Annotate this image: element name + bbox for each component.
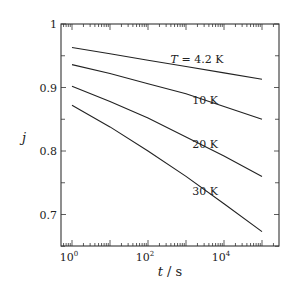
y-tick-label: 1 (50, 18, 57, 31)
curve-label: 30 K (192, 185, 218, 198)
data-curves (72, 48, 262, 232)
x-axis-ticks: 100102104 (60, 24, 274, 264)
chart: 100102104 10.90.80.7 T = 4.2 K10 K20 K30… (0, 0, 296, 295)
curve-1 (72, 65, 262, 120)
y-axis-label: j (19, 130, 26, 145)
y-tick-label: 0.9 (40, 82, 58, 95)
curve-2 (72, 86, 262, 176)
curve-label: 10 K (192, 94, 218, 107)
y-tick-label: 0.7 (40, 209, 58, 222)
curve-label: T = 4.2 K (171, 53, 225, 66)
y-axis-ticks: 10.90.80.7 (40, 18, 280, 246)
curve-label: 20 K (192, 138, 218, 151)
x-axis-unit: / s (163, 264, 182, 279)
x-axis-label: t / s (158, 264, 183, 279)
curve-3 (72, 105, 262, 231)
y-tick-label: 0.8 (40, 145, 58, 158)
x-tick-label: 104 (212, 250, 231, 264)
x-tick-label: 100 (60, 250, 78, 264)
curve-labels: T = 4.2 K10 K20 K30 K (171, 53, 225, 198)
curve-0 (72, 48, 262, 80)
x-tick-label: 102 (136, 250, 154, 264)
